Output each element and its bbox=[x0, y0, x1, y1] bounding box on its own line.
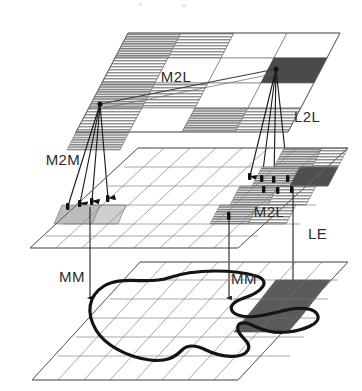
scan-artifact bbox=[182, 4, 186, 7]
figure-root: M2L L2L M2M M2L LE MM MM bbox=[0, 0, 362, 391]
label-middle-plane-m2l: M2L bbox=[254, 203, 284, 220]
label-middle-plane-m2m: M2M bbox=[46, 151, 81, 168]
top-plane bbox=[67, 33, 340, 150]
label-bottom-plane-mm-left: MM bbox=[59, 268, 85, 285]
scan-artifact bbox=[139, 3, 142, 6]
label-bottom-plane-mm-right: MM bbox=[231, 270, 257, 287]
label-top-plane-l2l: L2L bbox=[294, 108, 320, 125]
projection-diagram: M2L L2L M2M M2L LE MM MM bbox=[0, 0, 362, 391]
label-middle-plane-le: LE bbox=[308, 225, 327, 242]
label-top-plane-m2l: M2L bbox=[161, 68, 191, 85]
